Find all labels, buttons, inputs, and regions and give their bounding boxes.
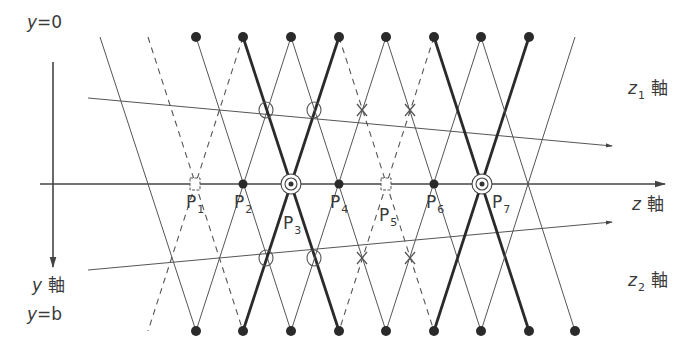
top-source-dot (524, 32, 534, 42)
z1-axis-line (88, 98, 612, 146)
point-double-circle-center (289, 182, 294, 187)
cross-mark (405, 252, 415, 264)
point-name: P (234, 192, 244, 212)
top-source-dot (191, 32, 201, 42)
axes (40, 62, 665, 270)
bottom-source-dot (334, 326, 344, 336)
point-label-p1: P1 (186, 194, 204, 211)
point-name: P (330, 192, 340, 212)
bottom-source-dot (476, 326, 486, 336)
point-label-p5: P5 (379, 207, 397, 224)
label-suffix: 軸 (651, 78, 668, 98)
point-sub: 1 (197, 203, 204, 216)
ray-diagram (0, 0, 696, 360)
bottom-source-dot (524, 326, 534, 336)
point-box-marker (381, 178, 391, 190)
bottom-source-dot (429, 326, 439, 336)
label-suffix: 軸 (48, 275, 65, 295)
top-source-dot (286, 32, 296, 42)
point-label-p6: P6 (426, 194, 444, 211)
bottom-source-dot (570, 326, 580, 336)
point-dot-marker (430, 180, 439, 189)
point-sub: 2 (245, 203, 252, 216)
label-suffix: 軸 (651, 270, 668, 290)
label-var: y (32, 275, 42, 295)
bottom-source-dot (238, 326, 248, 336)
point-sub: 7 (503, 203, 510, 216)
diagram-canvas: y=0 y軸 y=b z1軸 z軸 z2軸 P1 P2 P3 P4 P5 P6 … (0, 0, 696, 360)
label-y-equals-0: y=0 (27, 14, 62, 31)
cross-mark (405, 104, 415, 116)
point-name: P (492, 192, 502, 212)
point-dot-marker (239, 180, 248, 189)
point-label-p3: P3 (283, 215, 301, 232)
label-sub: 1 (638, 89, 645, 102)
label-var: z (628, 78, 637, 98)
cross-mark (357, 252, 367, 264)
label-y-equals-b: y=b (27, 306, 62, 323)
bottom-source-dot (381, 326, 391, 336)
point-label-p4: P4 (330, 194, 348, 211)
top-source-dot (381, 32, 391, 42)
label-eq: =0 (37, 12, 62, 32)
label-eq: =b (37, 304, 62, 324)
point-dot-marker (335, 180, 344, 189)
point-name: P (379, 205, 389, 225)
label-var: y (27, 304, 37, 324)
label-y-axis: y軸 (32, 277, 65, 294)
cross-mark (357, 104, 367, 116)
label-suffix: 軸 (647, 194, 664, 214)
label-sub: 2 (638, 281, 645, 294)
point-label-p2: P2 (234, 194, 252, 211)
point-name: P (426, 192, 436, 212)
bottom-source-dot (191, 326, 201, 336)
point-name: P (283, 213, 293, 233)
top-source-dot (238, 32, 248, 42)
point-sub: 4 (341, 203, 348, 216)
top-source-dot (476, 32, 486, 42)
label-z2-axis: z2軸 (628, 272, 668, 289)
point-sub: 6 (437, 203, 444, 216)
point-sub: 3 (294, 224, 301, 237)
label-var: y (27, 12, 37, 32)
top-source-dot (334, 32, 344, 42)
point-box-marker (190, 178, 200, 190)
point-double-circle-center (480, 182, 485, 187)
z2-axis-line (88, 222, 612, 270)
point-name: P (186, 192, 196, 212)
label-z1-axis: z1軸 (628, 80, 668, 97)
bottom-source-dot (286, 326, 296, 336)
point-label-p7: P7 (492, 194, 510, 211)
label-var: z (628, 270, 637, 290)
label-z-axis: z軸 (632, 196, 664, 213)
top-source-dot (429, 32, 439, 42)
label-var: z (632, 194, 641, 214)
point-sub: 5 (390, 216, 397, 229)
